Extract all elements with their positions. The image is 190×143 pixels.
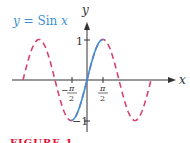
x-axis-arrow-icon — [168, 77, 176, 83]
x-axis-label: x — [179, 73, 186, 87]
figure-caption: FIGURE 1 — [10, 137, 73, 143]
y-axis-label: y — [81, 3, 89, 17]
x-tick-minus-sign: − — [61, 85, 69, 95]
y-axis-arrow-icon — [84, 22, 90, 30]
x-tick-pi: π — [99, 84, 106, 93]
x-tick-neg-two: 2 — [69, 94, 74, 103]
x-tick-two: 2 — [100, 94, 105, 103]
sine-chart: y = Sin x y x 1 −1 − π 2 π 2 FIGURE 1 — [0, 0, 190, 143]
x-tick-neg-pi: π — [68, 84, 75, 93]
function-label: y = Sin x — [12, 14, 68, 28]
y-tick-label-neg-one: −1 — [72, 115, 88, 128]
y-tick-label-one: 1 — [76, 35, 83, 48]
